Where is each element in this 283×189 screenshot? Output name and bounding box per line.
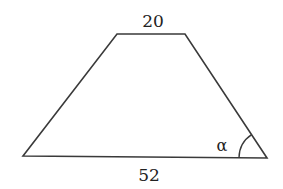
bottom-side-length-label: 52 [138, 165, 160, 185]
angle-alpha-arc [239, 135, 252, 158]
top-side-length-label: 20 [142, 11, 164, 31]
trapezoid-shape [23, 34, 267, 158]
trapezoid-diagram: 20 52 α [0, 0, 283, 189]
angle-alpha-label: α [217, 136, 228, 155]
